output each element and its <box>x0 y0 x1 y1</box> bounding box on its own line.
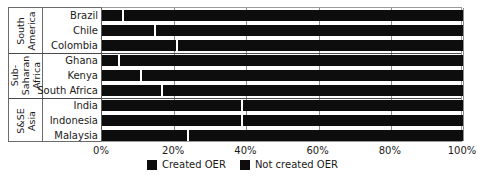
bar-segment-created-oer <box>102 85 161 96</box>
legend-item-not-created-oer: Not created OER <box>240 159 338 170</box>
bar-segment-not-created-oer <box>142 70 463 81</box>
row-label-indonesia: Indonesia <box>43 113 101 128</box>
chart-legend: Created OER Not created OER <box>0 159 485 170</box>
group-separator <box>102 98 461 99</box>
plot-area <box>101 7 462 142</box>
bar-segment-not-created-oer <box>124 10 463 21</box>
bar-segment-created-oer <box>102 10 122 21</box>
row-label-colombia: Colombia <box>43 38 101 53</box>
row-label-brazil: Brazil <box>43 8 101 23</box>
bar-row-brazil <box>102 10 463 21</box>
legend-swatch-created-oer <box>147 160 157 170</box>
bar-row-kenya <box>102 70 463 81</box>
bar-segment-created-oer <box>102 40 176 51</box>
row-label-chile: Chile <box>43 23 101 38</box>
row-label-kenya: Kenya <box>43 68 101 83</box>
x-axis-tick-label: 100% <box>448 145 477 156</box>
x-axis-tick-label: 40% <box>234 145 256 156</box>
x-axis-tick-label: 0% <box>93 145 109 156</box>
x-axis-tick-label: 80% <box>379 145 401 156</box>
row-label-malaysia: Malaysia <box>43 128 101 143</box>
bar-row-ghana <box>102 55 463 66</box>
legend-label-created-oer: Created OER <box>162 159 226 170</box>
bar-row-chile <box>102 25 463 36</box>
bar-segment-created-oer <box>102 25 154 36</box>
row-label-india: India <box>43 98 101 113</box>
bar-segment-not-created-oer <box>243 115 463 126</box>
bar-row-south-africa <box>102 85 463 96</box>
group-label-column: South AmericaSub-Saharan AfricaS&SE Asia <box>9 8 43 141</box>
bar-segment-created-oer <box>102 55 118 66</box>
legend-item-created-oer: Created OER <box>147 159 226 170</box>
group-label-text: South America <box>15 11 37 50</box>
legend-label-not-created-oer: Not created OER <box>255 159 338 170</box>
bar-segment-not-created-oer <box>243 100 463 111</box>
row-label-south-africa: South Africa <box>43 83 101 98</box>
bar-segment-created-oer <box>102 130 187 141</box>
legend-swatch-not-created-oer <box>240 160 250 170</box>
bar-segment-not-created-oer <box>156 25 463 36</box>
x-axis-tick-label: 20% <box>162 145 184 156</box>
row-label-ghana: Ghana <box>43 53 101 68</box>
bar-row-indonesia <box>102 115 463 126</box>
group-label-s-se-asia: S&SE Asia <box>9 98 43 143</box>
bar-segment-not-created-oer <box>163 85 463 96</box>
group-label-south-america: South America <box>9 8 43 53</box>
bar-segment-not-created-oer <box>120 55 463 66</box>
category-axis-labels: South AmericaSub-Saharan AfricaS&SE Asia… <box>8 7 102 142</box>
group-label-text: S&SE Asia <box>15 104 37 138</box>
bar-row-malaysia <box>102 130 463 141</box>
bar-segment-created-oer <box>102 115 241 126</box>
bar-segment-not-created-oer <box>178 40 463 51</box>
bar-row-india <box>102 100 463 111</box>
bar-segment-created-oer <box>102 100 241 111</box>
x-axis-tick-label: 60% <box>306 145 328 156</box>
group-separator <box>102 53 461 54</box>
bar-segment-created-oer <box>102 70 140 81</box>
stacked-bar-chart: South AmericaSub-Saharan AfricaS&SE Asia… <box>0 0 485 180</box>
gridline <box>463 8 464 141</box>
bar-row-colombia <box>102 40 463 51</box>
bar-segment-not-created-oer <box>189 130 463 141</box>
